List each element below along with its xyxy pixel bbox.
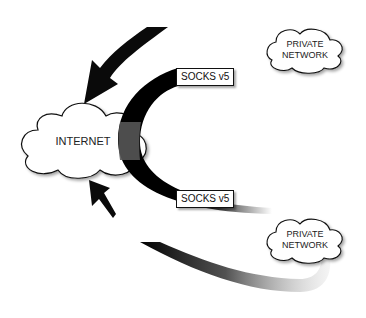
private-network-top-line2: NETWORK bbox=[282, 50, 328, 60]
internet-label: INTERNET bbox=[56, 135, 111, 147]
socks-label-bottom: SOCKS v5 bbox=[176, 190, 234, 208]
tunnel-overlap bbox=[119, 122, 142, 160]
private-network-top-line1: PRIVATE bbox=[286, 39, 323, 49]
socks-label-top: SOCKS v5 bbox=[176, 68, 234, 86]
private-network-bottom-line2: NETWORK bbox=[282, 240, 328, 250]
private-network-bottom-line1: PRIVATE bbox=[286, 229, 323, 239]
inbound-arrow-bottom bbox=[89, 180, 116, 218]
network-diagram: INTERNET PRIVATE NETWORK PRIVATE NETWORK bbox=[0, 0, 366, 318]
